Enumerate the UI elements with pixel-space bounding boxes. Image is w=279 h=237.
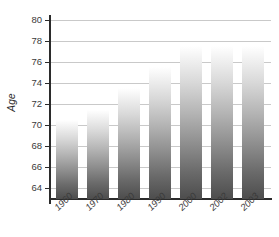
y-axis-tick-label: 80 [16,14,42,25]
y-axis-tick-label: 70 [16,119,42,130]
plot-area [51,20,271,199]
bar-1980 [118,88,140,199]
gridline [51,62,271,63]
bar-1970 [87,110,109,200]
gridline [51,41,271,42]
bar-2003 [242,46,264,199]
y-axis-tick-label: 72 [16,98,42,109]
y-axis-tick-label: 76 [16,56,42,67]
y-axis-tick-label: 66 [16,161,42,172]
y-axis-title: Age [6,83,17,123]
y-axis-tick-label: 68 [16,140,42,151]
bar-chart: Age 80 78 76 74 72 70 68 66 64 [0,0,279,237]
bar-1960 [56,120,78,199]
y-axis-tick-label: 78 [16,35,42,46]
y-axis-tick-label: 74 [16,77,42,88]
y-axis-tick-label: 64 [16,182,42,193]
bar-2002 [211,46,233,199]
bar-1990 [149,67,171,199]
gridline [51,20,271,21]
bar-2000 [180,46,202,199]
